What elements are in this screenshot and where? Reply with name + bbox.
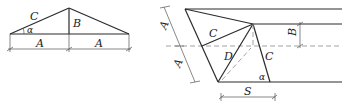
label-alpha: α bbox=[259, 72, 265, 82]
left-slope bbox=[10, 8, 69, 34]
top-edge bbox=[185, 9, 253, 24]
diagram-canvas: C B α A A A A B S C bbox=[0, 0, 348, 107]
label-a-lower: A bbox=[170, 57, 185, 70]
left-triangle-figure: C B α A A bbox=[7, 8, 132, 52]
label-s: S bbox=[244, 85, 252, 98]
left-edge bbox=[185, 9, 218, 82]
dimension-line-a bbox=[164, 7, 195, 82]
label-c-right: C bbox=[265, 50, 274, 63]
label-b: B bbox=[72, 17, 81, 30]
right-chord-figure: A A B S C D C α bbox=[156, 6, 342, 101]
label-a-right: A bbox=[94, 37, 103, 50]
label-a-left: A bbox=[35, 37, 44, 50]
label-b: B bbox=[286, 28, 299, 37]
label-alpha: α bbox=[27, 25, 33, 35]
label-c: C bbox=[30, 10, 39, 23]
label-d: D bbox=[223, 50, 233, 63]
tick bbox=[160, 6, 170, 8]
angle-arc bbox=[23, 28, 24, 34]
label-c-left: C bbox=[209, 27, 218, 40]
